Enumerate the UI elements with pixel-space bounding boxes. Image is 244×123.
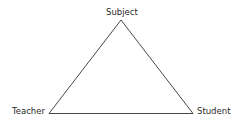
vertex-label-subject: Subject [106,7,138,17]
triangle-outline [49,20,193,114]
vertex-label-student: Student [197,106,230,116]
triangle-shape [0,0,244,123]
didactic-triangle-diagram: Subject Teacher Student [0,0,244,123]
vertex-label-teacher: Teacher [12,106,45,116]
